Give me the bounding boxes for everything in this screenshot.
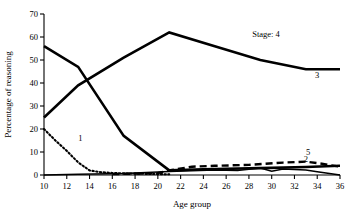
y-tick-label: 50 (30, 55, 39, 65)
series-label-5: 5 (306, 147, 310, 157)
x-tick-label: 24 (199, 181, 208, 191)
x-tick-label: 14 (85, 181, 94, 191)
chart-container: 0102030405060701012141618202224262830323… (0, 0, 355, 216)
x-tick-label: 12 (63, 181, 72, 191)
x-tick-label: 20 (154, 181, 163, 191)
series-label-1: 1 (78, 133, 82, 143)
x-tick-label: 36 (336, 181, 345, 191)
series-line-4 (44, 46, 340, 170)
series-label-4: Stage: 4 (252, 29, 280, 39)
y-tick-label: 20 (30, 124, 39, 134)
y-tick-label: 40 (30, 78, 39, 88)
x-tick-label: 22 (176, 181, 185, 191)
x-tick-label: 30 (267, 181, 276, 191)
series-line-3 (44, 32, 340, 117)
x-tick-label: 10 (40, 181, 49, 191)
x-tick-label: 28 (245, 181, 254, 191)
series-label-3: 3 (315, 70, 319, 80)
x-tick-label: 18 (131, 181, 140, 191)
series-line-1 (44, 129, 169, 174)
y-tick-label: 70 (30, 9, 39, 19)
x-tick-label: 32 (290, 181, 299, 191)
x-tick-label: 26 (222, 181, 231, 191)
x-tick-label: 34 (313, 181, 322, 191)
y-axis-title: Percentage of reasoning (3, 51, 13, 138)
x-tick-label: 16 (108, 181, 117, 191)
x-axis-title: Age group (173, 199, 212, 209)
line-chart: 0102030405060701012141618202224262830323… (0, 0, 355, 216)
y-tick-label: 30 (30, 101, 39, 111)
y-tick-label: 0 (34, 170, 38, 180)
y-tick-label: 10 (30, 147, 39, 157)
y-tick-label: 60 (30, 32, 39, 42)
